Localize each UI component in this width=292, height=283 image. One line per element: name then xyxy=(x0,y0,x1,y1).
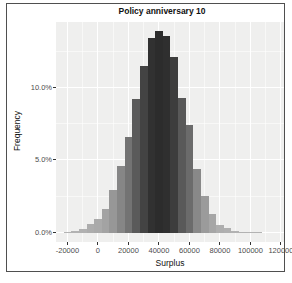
histogram-bar xyxy=(201,196,209,232)
x-major-gridline xyxy=(250,22,251,242)
chart-title: Policy anniversary 10 xyxy=(40,6,284,16)
histogram-bar xyxy=(247,232,255,233)
histogram-bar xyxy=(117,166,125,233)
x-tick-mark xyxy=(67,242,68,245)
x-tick-mark xyxy=(128,242,129,245)
x-tick-mark xyxy=(250,242,251,245)
x-tick-mark xyxy=(158,242,159,245)
histogram-bar xyxy=(170,57,178,233)
histogram-bar xyxy=(102,209,110,233)
x-tick-mark xyxy=(280,242,281,245)
histogram-bar xyxy=(163,36,171,233)
histogram-panel xyxy=(56,22,284,242)
histogram-bar xyxy=(132,99,140,233)
x-major-gridline xyxy=(97,22,98,242)
y-tick-mark xyxy=(53,159,56,160)
x-tick-mark xyxy=(189,242,190,245)
x-major-gridline xyxy=(67,22,68,242)
histogram-bar xyxy=(216,225,224,233)
histogram-bar xyxy=(193,169,201,233)
histogram-bar xyxy=(231,231,239,233)
histogram-bar xyxy=(239,232,247,233)
y-tick-mark xyxy=(53,232,56,233)
histogram-bar xyxy=(148,38,156,233)
x-axis-label: Surplus xyxy=(56,258,284,268)
y-tick-mark xyxy=(53,87,56,88)
histogram-bar xyxy=(186,125,194,232)
x-tick-mark xyxy=(97,242,98,245)
histogram-bar xyxy=(71,231,79,232)
histogram-bar xyxy=(155,31,163,233)
histogram-bar xyxy=(224,228,232,232)
x-major-gridline xyxy=(280,22,281,242)
histogram-bar xyxy=(79,229,87,233)
histogram-bar xyxy=(178,98,186,233)
x-minor-gridline xyxy=(265,22,266,242)
histogram-bar xyxy=(140,66,148,233)
x-minor-gridline xyxy=(235,22,236,242)
x-tick-label: 120000 xyxy=(259,246,292,255)
histogram-bar xyxy=(125,137,133,233)
y-axis-label: Frequency xyxy=(12,21,22,241)
histogram-bar xyxy=(109,190,117,232)
x-major-gridline xyxy=(219,22,220,242)
histogram-bar xyxy=(87,224,95,233)
histogram-bar xyxy=(209,214,217,233)
x-minor-gridline xyxy=(82,22,83,242)
plot-window: Policy anniversary 10 -20000020000400006… xyxy=(0,0,292,283)
histogram-bar xyxy=(94,219,102,232)
x-tick-mark xyxy=(219,242,220,245)
